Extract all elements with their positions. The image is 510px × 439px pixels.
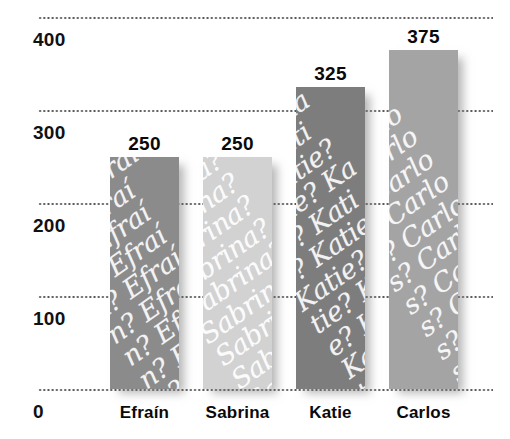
plot-area: 400 300 200 100 0 Efraín? Efraín? Efraín…	[0, 0, 510, 439]
bar-watermark-efrain: Efraín? Efraín? Efraín? Efraín? Efraín? …	[110, 157, 179, 389]
bar-watermark-sabrina: Sabrina? Sabrina? Sabrina? Sabrina? Sabr…	[203, 157, 272, 389]
value-label-efrain: 250	[110, 134, 179, 153]
gridline-400	[38, 17, 493, 19]
bar-watermark-carlos: Carlos? Carlos? Carlos? Carlos? Carlos? …	[389, 50, 458, 389]
bar-carlos[interactable]: Carlos? Carlos? Carlos? Carlos? Carlos? …	[389, 50, 458, 389]
category-label-carlos: Carlos	[379, 404, 468, 421]
y-tick-label-400: 400	[33, 30, 103, 49]
category-label-efrain: Efraín	[100, 404, 189, 421]
bar-sabrina[interactable]: Sabrina? Sabrina? Sabrina? Sabrina? Sabr…	[203, 157, 272, 389]
bar-watermark-katie: Katie? Katie? Katie? Katie? Katie? Katie…	[296, 87, 365, 389]
y-tick-label-100: 100	[33, 309, 103, 328]
gridline-0	[38, 389, 493, 391]
value-label-sabrina: 250	[203, 134, 272, 153]
bar-katie[interactable]: Katie? Katie? Katie? Katie? Katie? Katie…	[296, 87, 365, 389]
y-tick-label-300: 300	[33, 123, 103, 142]
y-tick-label-0: 0	[33, 402, 103, 421]
value-label-katie: 325	[296, 64, 365, 83]
category-label-sabrina: Sabrina	[193, 404, 282, 421]
category-label-katie: Katie	[286, 404, 375, 421]
value-label-carlos: 375	[389, 27, 458, 46]
bar-efrain[interactable]: Efraín? Efraín? Efraín? Efraín? Efraín? …	[110, 157, 179, 389]
y-tick-label-200: 200	[33, 216, 103, 235]
bar-chart: 400 300 200 100 0 Efraín? Efraín? Efraín…	[0, 0, 510, 439]
